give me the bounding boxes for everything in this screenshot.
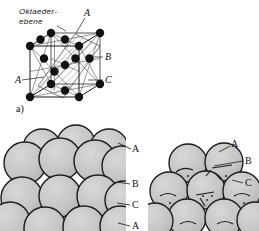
oktaederebene-label-line2: ebene <box>19 17 43 26</box>
figure-canvas: Oktaeder- ebene A B C A a) <box>0 0 259 231</box>
panel-a-caption: a) <box>16 103 24 115</box>
right-label-c-mid: C <box>245 177 252 188</box>
left-label-a-bottom: A <box>132 220 140 231</box>
panel-a-label-top-a: A <box>83 7 91 18</box>
panel-a-label-right-b: B <box>105 51 111 62</box>
panel-a-label-left-a: A <box>14 74 22 85</box>
right-layer-b <box>150 171 259 210</box>
panel-a-label-right-c: C <box>105 74 112 85</box>
crystal-structure-figure: Oktaeder- ebene A B C A a) <box>0 0 259 231</box>
left-label-a-top: A <box>132 143 140 154</box>
left-label-c-mid: C <box>132 199 139 210</box>
right-label-b-mid: B <box>245 155 252 166</box>
oktaederebene-label-line1: Oktaeder- <box>19 7 57 16</box>
right-label-a-top: A <box>231 138 239 149</box>
left-label-b-mid: B <box>132 178 139 189</box>
